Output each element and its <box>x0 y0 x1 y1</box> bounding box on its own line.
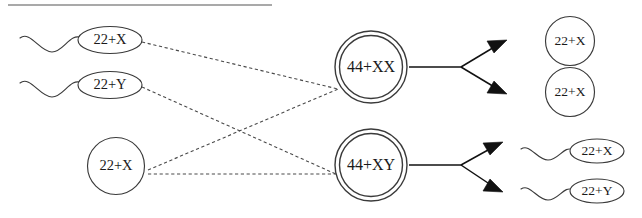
gamete-sperm-1: 22+X <box>20 27 142 54</box>
link-sperm1-to-zygote-xx <box>142 42 338 89</box>
offspring-xx-2-label: 22+X <box>555 84 586 99</box>
link-egg-to-zygote-xx <box>148 89 338 170</box>
zygote-xy: 44+XY <box>335 129 407 201</box>
arrow-head-xx-upper <box>487 40 507 53</box>
flagellum-tail-icon <box>521 188 573 200</box>
offspring-xy-2-label: 22+Y <box>582 183 613 198</box>
sperm-2-label: 22+Y <box>93 76 127 92</box>
arrow-head-xy-upper <box>483 142 503 155</box>
gamete-egg-1: 22+X <box>88 138 145 195</box>
flagellum-tail-icon <box>20 81 82 97</box>
meiosis-arrows-xy <box>409 142 503 192</box>
zygote-xx-label: 44+XX <box>347 58 396 75</box>
gamete-sperm-2: 22+Y <box>20 72 142 99</box>
zygote-xx: 44+XX <box>335 31 407 103</box>
offspring-xy-2: 22+Y <box>521 179 624 203</box>
egg-1-label: 22+X <box>99 157 133 173</box>
fertilization-links <box>142 42 338 175</box>
meiosis-arrows-xx <box>409 40 507 94</box>
diagram-canvas: 22+X 22+Y 22+X 44+XX 44+XY <box>0 0 642 218</box>
sperm-1-label: 22+X <box>93 31 127 47</box>
zygote-xy-label: 44+XY <box>347 156 396 173</box>
offspring-xy-1: 22+X <box>521 139 624 163</box>
flagellum-tail-icon <box>20 36 82 52</box>
offspring-xx-1: 22+X <box>546 17 595 66</box>
offspring-xx-1-label: 22+X <box>555 33 586 48</box>
offspring-xy-1-label: 22+X <box>582 143 613 158</box>
flagellum-tail-icon <box>521 148 573 160</box>
genetics-inheritance-diagram: 22+X 22+Y 22+X 44+XX 44+XY <box>0 0 642 218</box>
offspring-xx-2: 22+X <box>546 68 595 117</box>
arrow-head-xx-lower <box>487 81 507 94</box>
